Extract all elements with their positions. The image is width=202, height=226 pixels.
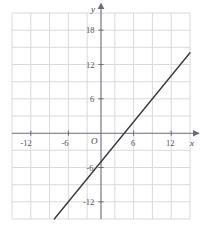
x-tick-label-neg12: -12 (21, 139, 32, 148)
y-axis-arrow (98, 3, 105, 10)
x-tick-label-pos6: 6 (131, 139, 135, 148)
origin-label: O (91, 137, 98, 146)
x-axis-arrow (193, 130, 200, 137)
y-tick-label-neg6: -6 (87, 164, 94, 173)
coordinate-plane-svg (0, 0, 202, 226)
y-tick-label-neg12: -12 (83, 198, 94, 207)
graph-figure: -12 -6 6 12 18 12 6 -6 -12 O x y (0, 0, 202, 226)
x-tick-label-neg6: -6 (62, 139, 69, 148)
y-tick-label-pos18: 18 (86, 26, 95, 35)
y-axis (98, 3, 105, 220)
plotted-line (54, 53, 190, 219)
x-axis (12, 130, 200, 137)
x-tick-label-pos12: 12 (166, 139, 175, 148)
y-tick-label-pos12: 12 (86, 61, 95, 70)
x-axis-label: x (190, 139, 194, 148)
y-tick-label-pos6: 6 (90, 95, 94, 104)
y-axis-label: y (91, 5, 95, 14)
